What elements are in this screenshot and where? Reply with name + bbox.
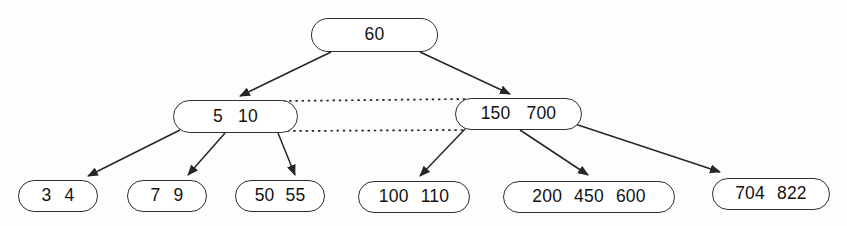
- tree-node-5-10: 510: [173, 100, 298, 133]
- edge-5-10-to-50-55: [278, 133, 295, 175]
- edge-5-10-to-7-9: [188, 133, 225, 175]
- node-key: 600: [616, 188, 646, 206]
- edge-150-700-to-200-450-600: [520, 130, 588, 175]
- node-key: 60: [365, 26, 385, 44]
- edge-60-to-150-700: [420, 52, 510, 94]
- node-key: 50: [255, 187, 275, 205]
- edge-5-10-to-3-4: [88, 130, 180, 176]
- node-key: 7: [151, 187, 161, 205]
- node-key: 3: [42, 187, 52, 205]
- edge-150-700-to-100-110: [420, 129, 465, 176]
- dashed-link-top: [283, 99, 466, 101]
- tree-node-150-700: 150700: [455, 98, 582, 130]
- node-key: 5: [213, 108, 223, 126]
- node-key: 4: [65, 187, 75, 205]
- node-key: 10: [238, 108, 258, 126]
- node-key: 9: [174, 187, 184, 205]
- tree-node-50-55: 5055: [235, 180, 325, 212]
- tree-node-200-450-600: 200450600: [503, 181, 675, 213]
- node-key: 55: [286, 187, 306, 205]
- tree-node-7-9: 79: [127, 180, 207, 212]
- dashed-link-bottom: [287, 130, 464, 131]
- node-key: 450: [574, 188, 604, 206]
- edge-60-to-5-10: [240, 52, 331, 96]
- node-key: 700: [527, 105, 557, 123]
- node-key: 200: [532, 188, 562, 206]
- tree-node-704-822: 704822: [712, 178, 830, 210]
- tree-node-3-4: 34: [18, 180, 98, 212]
- edge-150-700-to-704-822: [575, 124, 720, 172]
- node-key: 100: [379, 188, 409, 206]
- node-key: 110: [421, 188, 450, 206]
- tree-node-100-110: 100110: [358, 181, 470, 213]
- node-key: 150: [481, 105, 511, 123]
- node-key: 822: [777, 185, 807, 203]
- tree-node-60: 60: [311, 18, 438, 52]
- node-key: 704: [735, 185, 765, 203]
- btree-diagram: 6051015070034795055100110200450600704822: [0, 0, 847, 226]
